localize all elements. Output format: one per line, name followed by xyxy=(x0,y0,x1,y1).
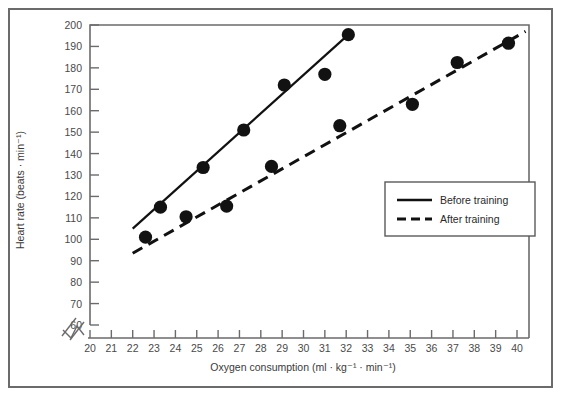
legend: Before training After training xyxy=(385,182,535,236)
x-tick-label-24: 24 xyxy=(170,342,182,354)
y-tick-label-180: 180 xyxy=(64,62,82,74)
x-tick-label-38: 38 xyxy=(468,342,480,354)
x-tick-label-22: 22 xyxy=(127,342,139,354)
datapoint-s1-4 xyxy=(333,119,346,132)
x-tick-label-28: 28 xyxy=(255,342,267,354)
datapoint-s1-0 xyxy=(139,231,152,244)
datapoint-s1-2 xyxy=(220,199,233,212)
datapoint-s0-1 xyxy=(197,161,210,174)
x-axis-title: Oxygen consumption (ml · kg⁻¹ · min⁻¹) xyxy=(210,361,395,373)
x-tick-label-37: 37 xyxy=(447,342,459,354)
y-tick-label-160: 160 xyxy=(64,105,82,117)
x-tick-label-39: 39 xyxy=(490,342,502,354)
datapoint-s0-0 xyxy=(154,201,167,214)
x-tick-label-21: 21 xyxy=(106,342,118,354)
datapoint-s1-3 xyxy=(265,160,278,173)
y-tick-label-110: 110 xyxy=(65,212,82,224)
y-tick-label-170: 170 xyxy=(64,83,82,95)
x-axis: 2021222324252627282930313233343536373839… xyxy=(84,330,523,354)
datapoint-s0-3 xyxy=(278,78,291,91)
x-tick-label-35: 35 xyxy=(404,342,416,354)
y-tick-label-130: 130 xyxy=(64,169,82,181)
figure-container: 6070809010011012013014015016017018019020… xyxy=(0,0,561,396)
y-axis-title: Heart rate (beats · min⁻¹) xyxy=(14,131,26,249)
y-axis: 6070809010011012013014015016017018019020… xyxy=(64,19,99,331)
x-tick-label-34: 34 xyxy=(383,342,395,354)
datapoint-s0-4 xyxy=(318,68,331,81)
y-tick-label-80: 80 xyxy=(70,276,82,288)
scatter-plot: 6070809010011012013014015016017018019020… xyxy=(0,0,561,396)
series-before-training xyxy=(133,28,355,229)
x-tick-label-25: 25 xyxy=(191,342,203,354)
x-tick-label-36: 36 xyxy=(426,342,438,354)
x-tick-label-32: 32 xyxy=(340,342,352,354)
x-tick-label-30: 30 xyxy=(298,342,310,354)
x-tick-label-27: 27 xyxy=(234,342,246,354)
datapoint-s1-7 xyxy=(502,37,515,50)
y-tick-label-190: 190 xyxy=(64,40,82,52)
x-tick-label-20: 20 xyxy=(84,342,96,354)
legend-label-after-training: After training xyxy=(440,213,500,225)
y-tick-label-70: 70 xyxy=(70,298,82,310)
y-tick-label-120: 120 xyxy=(64,190,82,202)
x-tick-label-40: 40 xyxy=(511,342,523,354)
datapoint-s1-6 xyxy=(451,56,464,69)
x-tick-label-23: 23 xyxy=(148,342,160,354)
x-tick-label-26: 26 xyxy=(212,342,224,354)
datapoint-s0-2 xyxy=(237,123,250,136)
x-tick-label-33: 33 xyxy=(362,342,374,354)
y-tick-label-100: 100 xyxy=(64,233,82,245)
x-tick-label-29: 29 xyxy=(276,342,288,354)
datapoint-s1-5 xyxy=(406,98,419,111)
y-tick-label-140: 140 xyxy=(64,148,82,160)
legend-label-before-training: Before training xyxy=(440,194,508,206)
legend-box xyxy=(385,182,535,236)
datapoint-s0-5 xyxy=(342,28,355,41)
datapoint-s1-1 xyxy=(179,210,192,223)
y-tick-label-90: 90 xyxy=(70,255,82,267)
x-tick-label-31: 31 xyxy=(319,342,331,354)
y-tick-label-200: 200 xyxy=(64,19,82,31)
y-tick-label-150: 150 xyxy=(64,126,82,138)
y-tick-label-60: 60 xyxy=(70,319,82,331)
